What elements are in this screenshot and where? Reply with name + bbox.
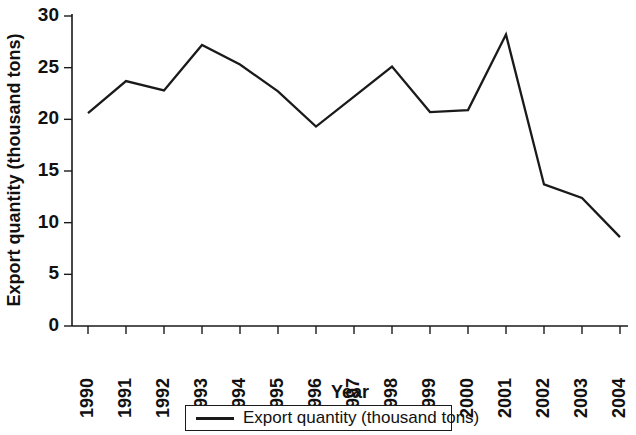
x-axis-ticks [88,326,620,334]
y-tick-label: 15 [38,159,60,180]
x-axis-title: Year [331,382,369,402]
y-tick-label: 5 [48,262,59,283]
y-axis-title: Export quantity (thousand tons) [4,34,24,307]
x-tick-label: 2004 [609,378,629,418]
line-chart: 051015202530 199019911992199319941995199… [0,0,636,435]
y-tick-label: 0 [48,314,59,335]
y-axis-ticks [64,16,72,326]
y-tick-label: 25 [38,56,60,77]
legend-label: Export quantity (thousand tons) [243,408,479,428]
x-tick-label: 2002 [533,378,553,418]
legend-line-marker-icon [196,417,234,420]
x-tick-label: 2003 [571,378,591,418]
chart-canvas: 051015202530 199019911992199319941995199… [0,0,636,435]
y-tick-label: 20 [38,107,59,128]
x-tick-label: 1991 [115,378,135,418]
y-tick-label: 10 [38,211,59,232]
x-tick-label: 1992 [153,378,173,418]
chart-legend: Export quantity (thousand tons) [185,405,452,431]
y-axis-tick-labels: 051015202530 [38,4,60,335]
x-tick-label: 2001 [495,378,515,418]
y-tick-label: 30 [38,4,59,25]
series-line-export-quantity [88,35,620,238]
x-tick-label: 1990 [77,378,97,418]
